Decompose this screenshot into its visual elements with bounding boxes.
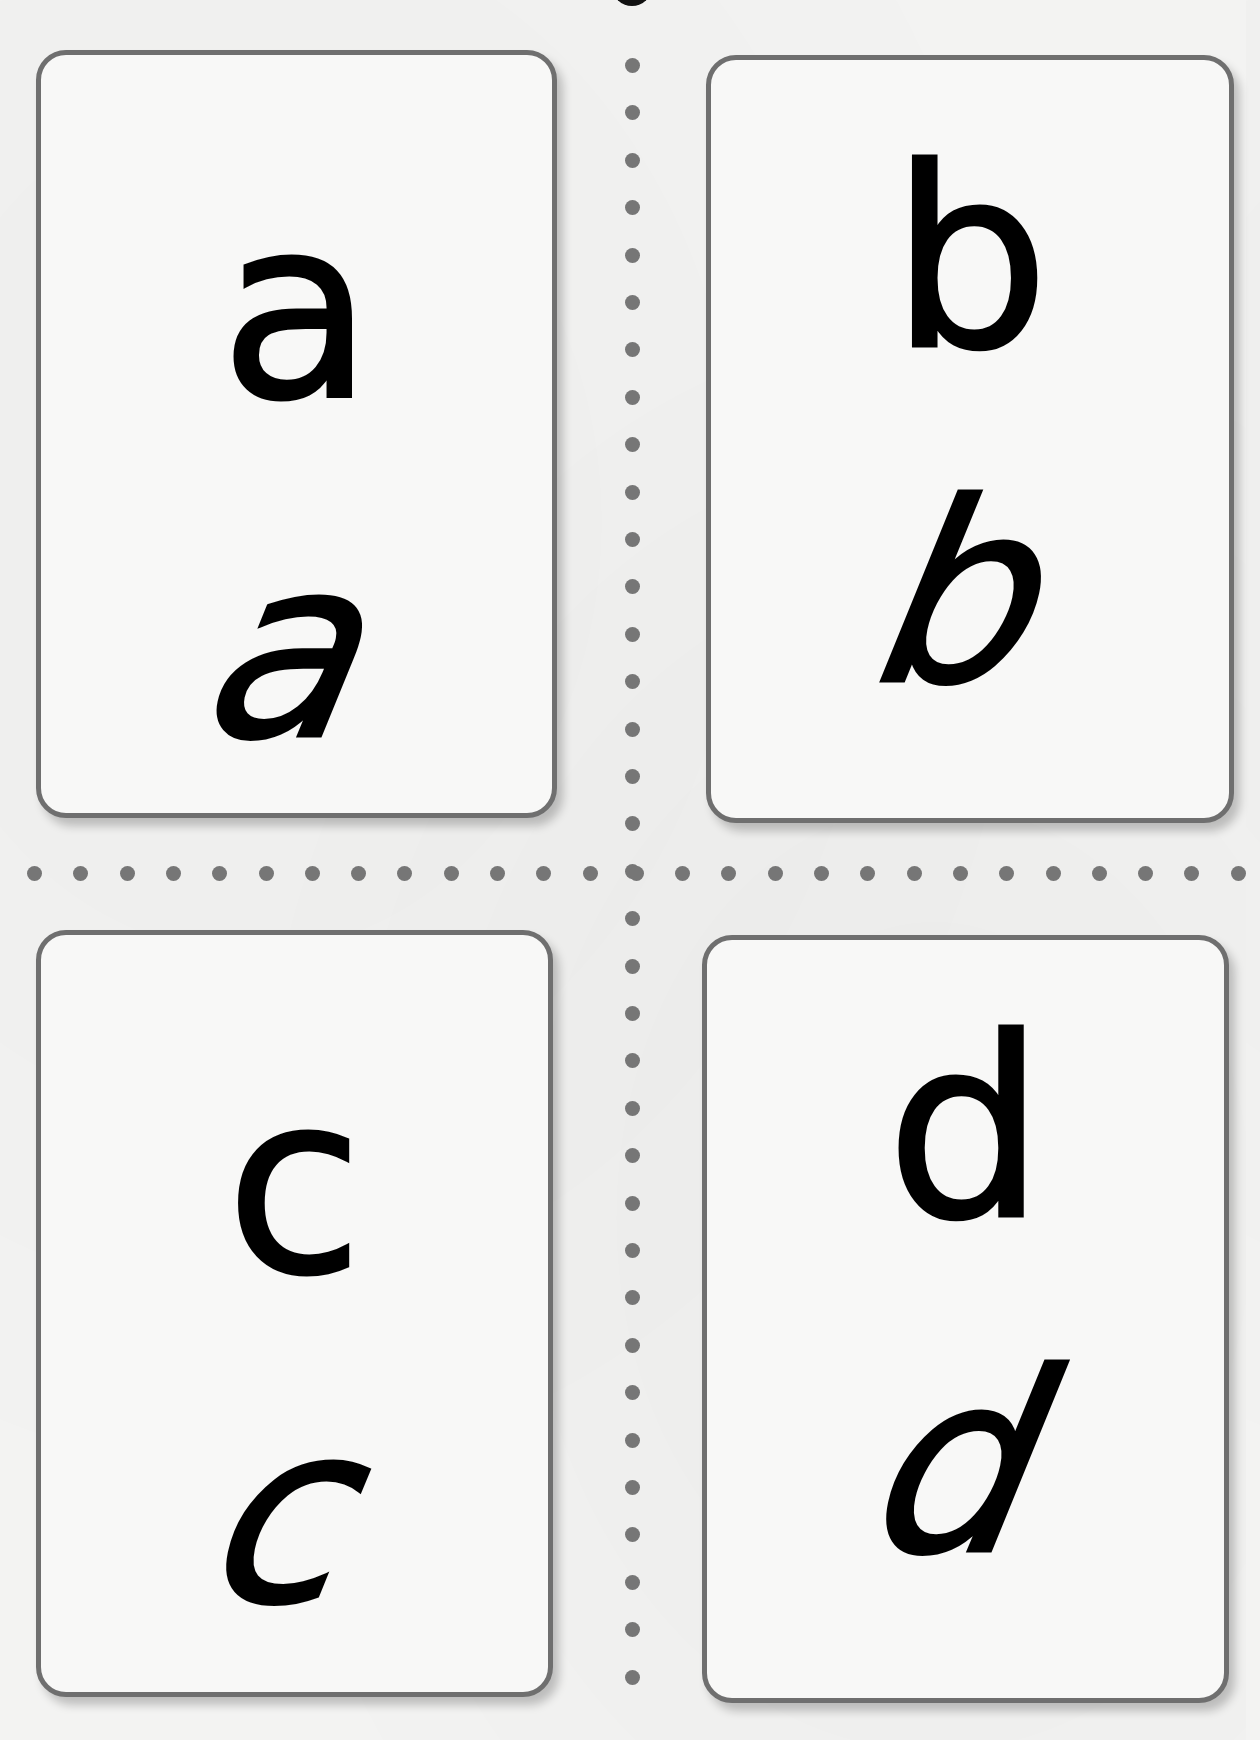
cut-dot (907, 866, 922, 881)
cut-dot (625, 1670, 640, 1685)
cut-dot (625, 627, 640, 642)
cut-dot (625, 769, 640, 784)
cut-dot (625, 722, 640, 737)
cut-dot (860, 866, 875, 881)
cut-dot (1046, 866, 1061, 881)
cut-dot (625, 1338, 640, 1353)
cut-dot (490, 866, 505, 881)
cursive-letter: c (14, 1390, 574, 1640)
cut-dot (625, 390, 640, 405)
cut-dot (625, 1527, 640, 1542)
cut-dot (625, 342, 640, 357)
cut-dot (625, 200, 640, 215)
print-letter: c (41, 1060, 548, 1310)
cut-dot (583, 866, 598, 881)
cut-dot (625, 1148, 640, 1163)
cut-dot (625, 911, 640, 926)
cut-dot (625, 1290, 640, 1305)
cut-dot (625, 959, 640, 974)
cut-dot (721, 866, 736, 881)
cut-dot (212, 866, 227, 881)
cursive-letter: d (680, 1340, 1250, 1590)
flashcard-c[interactable]: c c (36, 930, 553, 1697)
cut-dot (1231, 866, 1246, 881)
partial-top-glyph (612, 0, 652, 6)
cut-dot (27, 866, 42, 881)
cut-dot (625, 816, 640, 831)
cut-dot (625, 579, 640, 594)
flashcard-b[interactable]: b b (706, 55, 1234, 823)
cut-dot (625, 1433, 640, 1448)
cut-dot (625, 295, 640, 310)
cut-dot (675, 866, 690, 881)
cut-dot (397, 866, 412, 881)
flashcard-a[interactable]: a a (36, 50, 557, 818)
cut-dot (625, 437, 640, 452)
cursive-letter: b (684, 470, 1255, 720)
cut-dot (953, 866, 968, 881)
cut-dot (625, 1101, 640, 1116)
cut-dot (536, 866, 551, 881)
cut-dot (73, 866, 88, 881)
cut-dot (814, 866, 829, 881)
cut-dot (1184, 866, 1199, 881)
cut-dot (259, 866, 274, 881)
cut-dot (305, 866, 320, 881)
cut-dot (999, 866, 1014, 881)
cut-dot (625, 485, 640, 500)
cut-dot (625, 153, 640, 168)
cut-dot (625, 248, 640, 263)
cut-dot (625, 58, 640, 73)
cut-dot (625, 1622, 640, 1637)
cut-dot (166, 866, 181, 881)
cut-dot (625, 105, 640, 120)
cut-dot (444, 866, 459, 881)
cut-dot (625, 1196, 640, 1211)
cut-dot (351, 866, 366, 881)
cut-dot (625, 1006, 640, 1021)
cursive-letter: a (14, 525, 578, 775)
cut-dot (625, 532, 640, 547)
cut-dot (625, 1385, 640, 1400)
cut-dot (625, 1575, 640, 1590)
cut-dot (625, 1480, 640, 1495)
cut-dot (625, 1053, 640, 1068)
flashcard-d[interactable]: d d (702, 935, 1229, 1703)
cut-dot (1138, 866, 1153, 881)
cut-dot (768, 866, 783, 881)
cut-dot (120, 866, 135, 881)
cut-dot (625, 1243, 640, 1258)
cut-dot (629, 866, 644, 881)
cut-dot (625, 674, 640, 689)
print-letter: b (711, 135, 1229, 385)
cut-dot (1092, 866, 1107, 881)
print-letter: a (41, 185, 552, 435)
print-letter: d (707, 1005, 1224, 1255)
